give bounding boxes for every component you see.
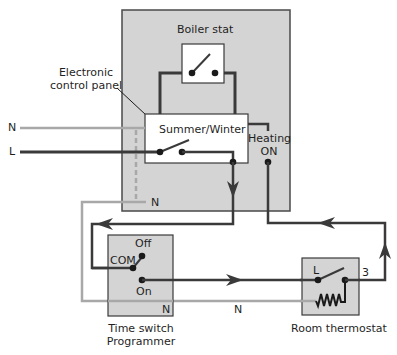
wiring-diagram bbox=[0, 0, 397, 355]
on-label: On bbox=[136, 285, 152, 298]
boiler-stat-box bbox=[182, 44, 224, 83]
thermostat-l-label: L bbox=[313, 264, 319, 277]
time-switch-label-line1: Time switch bbox=[96, 322, 186, 335]
off-label: Off bbox=[135, 237, 151, 250]
summer-winter-label: Summer/Winter bbox=[159, 123, 246, 136]
control-panel-box bbox=[122, 10, 290, 211]
n-input-label: N bbox=[8, 121, 16, 134]
heating-on-label-line2: ON bbox=[248, 145, 290, 158]
room-thermostat-label: Room thermostat bbox=[291, 322, 387, 335]
com-label: COM bbox=[110, 254, 136, 267]
boiler-stat-label: Boiler stat bbox=[177, 23, 233, 36]
time-switch-label: Time switch Programmer bbox=[96, 322, 186, 348]
wire-n-label: N bbox=[234, 303, 242, 316]
heating-on-label-line1: Heating bbox=[248, 132, 290, 145]
l-input-label: L bbox=[9, 145, 15, 158]
heating-on-label: Heating ON bbox=[248, 132, 290, 158]
panel-n-label: N bbox=[151, 196, 159, 209]
control-panel-label-line1: Electronic bbox=[46, 66, 126, 79]
timeswitch-n-label: N bbox=[162, 303, 170, 316]
time-switch-label-line2: Programmer bbox=[96, 335, 186, 348]
control-panel-label: Electronic control panel bbox=[46, 66, 126, 92]
room-thermostat-box bbox=[302, 258, 359, 315]
control-panel-label-line2: control panel bbox=[46, 79, 126, 92]
thermostat-3-label: 3 bbox=[362, 266, 369, 279]
